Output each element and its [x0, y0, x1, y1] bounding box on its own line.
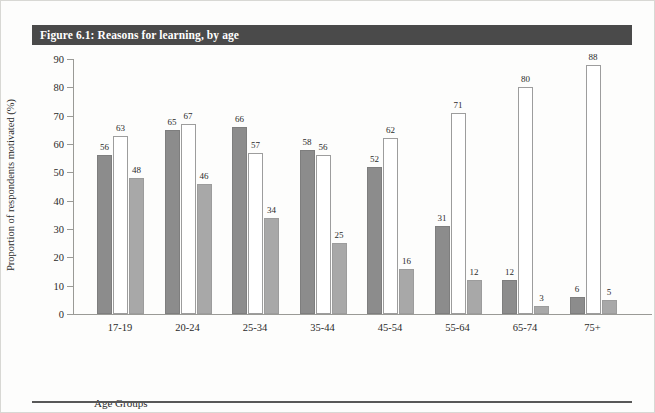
bar-value-label: 65	[168, 117, 177, 127]
bar-value-label: 67	[184, 111, 193, 121]
x-axis-tick-label: 75+	[584, 322, 600, 333]
y-axis-tick	[67, 172, 73, 173]
bar-value-label: 56	[319, 142, 328, 152]
bar: 88	[586, 65, 601, 314]
bar-group: 58562535-44	[300, 59, 347, 314]
y-axis-tick	[67, 59, 73, 60]
bar: 46	[197, 184, 212, 314]
y-axis-tick-label: 90	[54, 54, 65, 65]
y-axis-tick-label: 10	[54, 280, 65, 291]
y-axis-tick	[67, 144, 73, 145]
bar: 6	[570, 297, 585, 314]
bar-value-label: 12	[470, 267, 479, 277]
bar: 65	[165, 130, 180, 314]
bar-value-label: 66	[235, 114, 244, 124]
bar: 25	[332, 243, 347, 314]
bar: 57	[248, 153, 263, 315]
y-axis-tick-label: 60	[54, 139, 65, 150]
bar-group: 1280365-74	[502, 59, 549, 314]
bar-group: 52621645-54	[367, 59, 414, 314]
bar: 52	[367, 167, 382, 314]
y-axis-tick-label: 20	[54, 252, 65, 263]
bar: 71	[451, 113, 466, 314]
bar-value-label: 58	[303, 137, 312, 147]
bar-value-label: 63	[116, 123, 125, 133]
y-axis-tick-label: 50	[54, 167, 65, 178]
bar-value-label: 12	[505, 267, 514, 277]
bar: 66	[232, 127, 247, 314]
bar-group: 56634817-19	[97, 59, 144, 314]
bar-value-label: 6	[575, 284, 580, 294]
y-axis-line	[73, 59, 74, 315]
bar-value-label: 52	[370, 154, 379, 164]
bar-group: 66573425-34	[232, 59, 279, 314]
y-axis-tick	[67, 116, 73, 117]
figure-page: Figure 6.1: Reasons for learning, by age…	[0, 0, 655, 413]
y-axis-tick	[67, 229, 73, 230]
bar: 48	[129, 178, 144, 314]
bar-value-label: 5	[607, 287, 612, 297]
y-axis-tick	[67, 87, 73, 88]
bar-value-label: 16	[402, 256, 411, 266]
bar-value-label: 71	[454, 100, 463, 110]
bar: 31	[435, 226, 450, 314]
x-axis-tick-label: 25-34	[243, 322, 268, 333]
plot-area: 0102030405060708090 56634817-1965674620-…	[73, 59, 652, 314]
x-axis-tick-label: 20-24	[175, 322, 200, 333]
x-axis-tick-label: 17-19	[108, 322, 133, 333]
bar: 34	[264, 218, 279, 314]
bar-value-label: 80	[521, 74, 530, 84]
y-axis-tick-label: 70	[54, 110, 65, 121]
y-axis-tick	[67, 314, 73, 315]
bar-group: 688575+	[570, 59, 617, 314]
y-axis-tick	[67, 286, 73, 287]
bar-value-label: 57	[251, 140, 260, 150]
bar: 3	[534, 306, 549, 315]
bar: 12	[467, 280, 482, 314]
y-axis-tick-label: 40	[54, 195, 65, 206]
x-axis-tick-label: 45-54	[378, 322, 403, 333]
bar: 12	[502, 280, 517, 314]
x-axis-tick-label: 35-44	[310, 322, 335, 333]
bar-value-label: 3	[539, 293, 544, 303]
x-axis-tick-label: 65-74	[513, 322, 538, 333]
y-axis-tick	[67, 257, 73, 258]
bar: 16	[399, 269, 414, 314]
bar-group: 65674620-24	[165, 59, 212, 314]
chart-container: Proportion of respondents motivated (%) …	[32, 57, 632, 357]
x-axis-title: Age Groups	[94, 397, 147, 409]
y-axis-tick-label: 80	[54, 82, 65, 93]
bar: 58	[300, 150, 315, 314]
bar: 56	[97, 155, 112, 314]
bar-value-label: 25	[335, 230, 344, 240]
bar-group: 31711255-64	[435, 59, 482, 314]
x-axis-tick-label: 55-64	[445, 322, 470, 333]
bar-value-label: 48	[132, 165, 141, 175]
bottom-divider	[32, 401, 632, 403]
bar-value-label: 62	[386, 125, 395, 135]
bar: 56	[316, 155, 331, 314]
bar: 63	[113, 136, 128, 315]
bar-value-label: 56	[100, 142, 109, 152]
figure-title-bar: Figure 6.1: Reasons for learning, by age	[32, 25, 632, 45]
bar: 67	[181, 124, 196, 314]
y-axis-tick-label: 0	[59, 309, 64, 320]
bar: 5	[602, 300, 617, 314]
bar: 80	[518, 87, 533, 314]
y-axis-title: Proportion of respondents motivated (%)	[5, 99, 16, 271]
bar: 62	[383, 138, 398, 314]
y-axis-tick	[67, 201, 73, 202]
bar-value-label: 34	[267, 205, 276, 215]
bar-value-label: 31	[438, 213, 447, 223]
page-title: Figure 6.1: Reasons for learning, by age	[32, 29, 239, 41]
bar-value-label: 46	[200, 171, 209, 181]
y-axis-tick-label: 30	[54, 224, 65, 235]
bar-value-label: 88	[589, 52, 598, 62]
x-axis-line	[73, 314, 652, 315]
